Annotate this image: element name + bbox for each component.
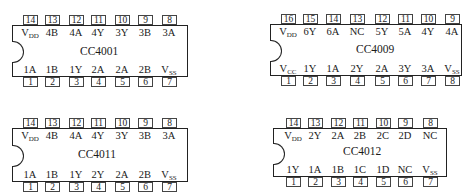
pin-number: 8 — [162, 118, 177, 128]
pin-label: 1Y — [298, 63, 322, 74]
pin-label: 1Y — [64, 64, 88, 75]
pin-number: 5 — [115, 182, 130, 192]
pin-label: 3A — [416, 63, 440, 74]
pin-number: 13 — [350, 14, 365, 24]
pin-label: VDD — [18, 27, 42, 42]
pin-label: 2A — [326, 130, 350, 141]
pin-label: 2A — [110, 169, 134, 180]
pin-number: 1 — [286, 177, 301, 187]
pin-label: 3Y — [110, 130, 134, 141]
pin-label: 5Y — [370, 26, 394, 37]
pin-number: 3 — [331, 177, 346, 187]
pin-label: 1B — [326, 164, 350, 175]
pin-label: 2Y — [86, 169, 110, 180]
pin-label: 2B — [348, 130, 372, 141]
pin-number: 11 — [353, 118, 368, 128]
pin-label: VSS — [157, 169, 181, 184]
pin-label: 2B — [133, 169, 157, 180]
pin-label: 1C — [348, 164, 372, 175]
pin-number: 14 — [326, 14, 341, 24]
pin-number: 2 — [308, 177, 323, 187]
pin-number: 14 — [23, 118, 38, 128]
pin-number: 6 — [398, 177, 413, 187]
pin-number: 13 — [308, 118, 323, 128]
pin-label: 4A — [64, 27, 88, 38]
pin-label: 2B — [133, 64, 157, 75]
pin-number: 3 — [69, 77, 84, 87]
pin-label: 4A — [64, 130, 88, 141]
pin-label: 2Y — [303, 130, 327, 141]
pin-number: 10 — [421, 14, 436, 24]
pin-label: VDD — [276, 26, 300, 41]
pin-number: 13 — [45, 15, 60, 25]
chip-name: CC4009 — [356, 43, 394, 55]
pin-label: 1A — [321, 63, 345, 74]
pin-number: 12 — [69, 15, 84, 25]
pin-label: 3Y — [110, 27, 134, 38]
pin-number: 12 — [69, 118, 84, 128]
pin-number: 3 — [69, 182, 84, 192]
pin-label: 6A — [321, 26, 345, 37]
pin-label: VDD — [281, 130, 305, 145]
pin-label: 2A — [370, 63, 394, 74]
pin-number: 9 — [138, 15, 153, 25]
pin-number: 4 — [350, 76, 365, 86]
orientation-notch-icon — [12, 145, 24, 167]
pin-label: 1A — [18, 169, 42, 180]
pin-label: NC — [393, 164, 417, 175]
chip-name: CC4011 — [78, 148, 116, 160]
orientation-notch-icon — [270, 40, 282, 62]
pin-number: 6 — [398, 76, 413, 86]
pin-number: 8 — [423, 118, 438, 128]
pin-label: 2A — [110, 64, 134, 75]
pin-number: 11 — [398, 14, 413, 24]
pin-label: 1A — [18, 64, 42, 75]
pin-number: 1 — [23, 182, 38, 192]
pin-label: 2D — [393, 130, 417, 141]
pin-number: 5 — [375, 76, 390, 86]
chip-name: CC4001 — [80, 45, 118, 57]
pin-number: 6 — [138, 77, 153, 87]
pin-label: 3A — [157, 27, 181, 38]
pin-number: 10 — [115, 118, 130, 128]
pin-label: 1Y — [281, 164, 305, 175]
pin-label: 4B — [40, 130, 64, 141]
pin-number: 10 — [115, 15, 130, 25]
pin-label: VDD — [18, 130, 42, 145]
pin-number: 2 — [45, 182, 60, 192]
pin-number: 9 — [398, 118, 413, 128]
pin-number: 13 — [45, 118, 60, 128]
pin-label: VSS — [157, 64, 181, 79]
pin-label: 2C — [371, 130, 395, 141]
pin-number: 4 — [91, 77, 106, 87]
pin-label: 1D — [371, 164, 395, 175]
pin-number: 5 — [376, 177, 391, 187]
pin-label: 1B — [40, 64, 64, 75]
pin-label: 4Y — [86, 130, 110, 141]
pin-label: 2Y — [345, 63, 369, 74]
pin-number: 4 — [91, 182, 106, 192]
orientation-notch-icon — [273, 143, 285, 165]
pin-number: 3 — [326, 76, 341, 86]
pin-label: 6Y — [298, 26, 322, 37]
pin-label: NC — [345, 26, 369, 37]
pin-number: 16 — [281, 14, 296, 24]
pin-label: 1Y — [64, 169, 88, 180]
pin-number: 2 — [45, 77, 60, 87]
pin-label: VSS — [418, 164, 442, 179]
pin-number: 4 — [353, 177, 368, 187]
pin-number: 9 — [445, 14, 460, 24]
pin-number: 14 — [23, 15, 38, 25]
pin-label: 4Y — [416, 26, 440, 37]
pin-label: 1A — [303, 164, 327, 175]
pin-label: VCC — [276, 63, 300, 78]
pin-label: 3B — [133, 130, 157, 141]
pin-label: 4Y — [86, 27, 110, 38]
pin-label: 3B — [133, 27, 157, 38]
pin-number: 12 — [375, 14, 390, 24]
pin-number: 10 — [376, 118, 391, 128]
pin-number: 12 — [331, 118, 346, 128]
pin-number: 7 — [421, 76, 436, 86]
pin-number: 1 — [23, 77, 38, 87]
pin-label: 4B — [40, 27, 64, 38]
